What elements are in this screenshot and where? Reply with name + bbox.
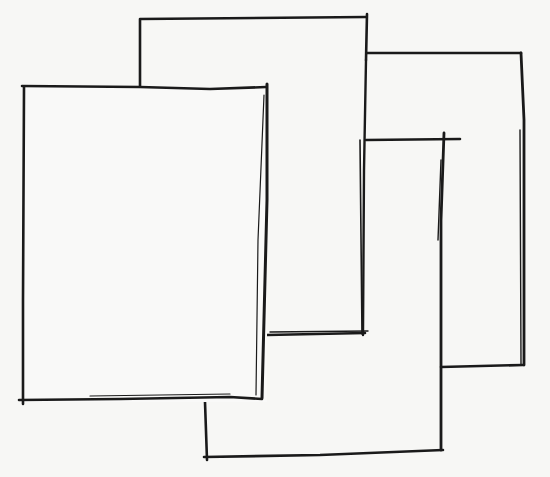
sketch-canvas bbox=[0, 0, 550, 477]
front-left-page bbox=[19, 84, 267, 404]
right-page bbox=[367, 53, 524, 367]
